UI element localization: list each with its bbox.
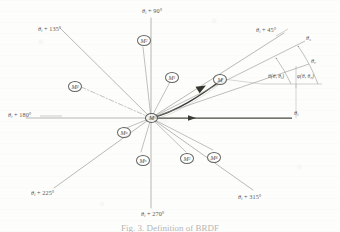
ray-315 [151,118,253,190]
node-label: M [149,115,154,121]
angle-fn-head: φ(θ, θ [297,73,310,79]
ray-to-mn [141,118,151,152]
theta-subscript: r [314,60,316,65]
theta-suffix: + 270° [145,210,164,217]
theta-subscript: i [297,112,298,117]
theta-suffix: + 225° [35,189,54,196]
label-angle-function-inner: θ(θ, θi) [268,74,284,80]
label-theta-i-axis: θi [294,110,298,117]
node-subscript: 2 [146,38,148,43]
node-label: M [218,77,223,83]
figure-caption: Fig. 3. Definition of BRDF [0,223,340,232]
label-theta-i-plus-315: θi + 315° [238,194,261,201]
node-m-beta: Mβ [68,81,82,92]
figure-root: θi + 45° θi + 90° θi + 135° θi + 180° θi… [0,0,340,232]
label-theta-i-plus-270: θi + 270° [141,211,164,218]
node-m-origin: M [145,113,158,123]
ray-to-mbeta-dashdot [79,86,151,118]
node-subscript: 3 [189,156,191,161]
node-subscript: α [125,130,127,135]
node-m-n: Mn [136,155,150,166]
angle-fn-tail: ) [312,73,314,79]
label-theta-r-axis: θr [311,58,316,65]
label-theta-i-plus-225: θi + 225° [31,190,54,197]
ray-to-m2 [143,47,151,118]
theta-suffix: + 90° [146,7,162,14]
node-m-1: M1 [165,72,179,83]
diagram-canvas [0,0,340,232]
node-m-2: M2 [137,35,151,46]
axis-theta-i [151,115,292,121]
label-theta-s-axis: θs [306,35,311,42]
label-theta-i-plus-45: θi + 45° [256,27,276,34]
node-m-connector [223,79,262,84]
node-subscript: β [77,84,79,89]
label-angle-function-outer: φ(θ, θr) [297,74,314,80]
angle-fn-tail: ) [282,73,284,79]
label-theta-i-plus-135: θi + 135° [38,26,61,33]
theta-suffix: + 135° [42,25,61,32]
ray-to-m3 [151,118,186,152]
node-subscript: n [145,158,147,163]
theta-suffix: + 180° [12,111,31,118]
node-subscript: 1 [174,75,176,80]
angle-fn-head: θ(θ, θ [268,73,281,79]
theta-suffix: + 45° [260,26,276,33]
label-theta-i-plus-180: θi + 180° [8,112,31,119]
theta-subscript: s [309,37,311,42]
label-theta-i-plus-90: θi + 90° [142,8,162,15]
node-m-alpha: Mα [117,127,131,138]
node-m-main: M [213,74,227,85]
axis-theta-i-arrowhead [188,115,196,121]
node-m-4: M4 [207,152,221,163]
theta-suffix: + 315° [242,193,261,200]
leader-45 [276,29,288,36]
main-scatter-curve [151,79,223,118]
node-subscript: 4 [216,155,218,160]
node-m-3: M3 [180,153,194,164]
label-leaders [40,29,288,116]
ray-225 [54,118,151,188]
ray-to-m4 [151,118,213,150]
